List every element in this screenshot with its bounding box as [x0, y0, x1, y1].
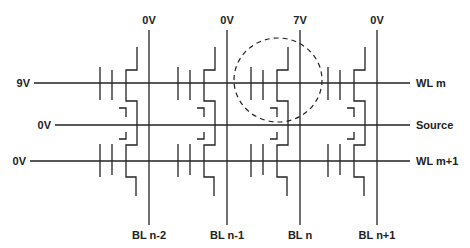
selected-cell-highlight	[234, 38, 322, 122]
bl-n-1-lower-source-mark	[197, 132, 204, 139]
bl-n-upper-source-mark	[270, 108, 277, 117]
bl-n1-label: BL n+1	[359, 229, 396, 241]
bl-n-2-upper-source-mark	[119, 108, 126, 117]
bl-n-1-voltage: 0V	[220, 14, 233, 26]
bl-n-label: BL n	[288, 229, 312, 241]
bl-n-2-lower-source-mark	[119, 132, 126, 139]
bl-n-upper-channel	[277, 47, 288, 125]
bl-n-lower-source-mark	[270, 132, 277, 139]
bl-n-1-upper-source-mark	[197, 108, 204, 117]
wl-m1-voltage: 0V	[13, 155, 26, 167]
bl-n-voltage: 7V	[293, 14, 306, 26]
wl-m-label: WL m	[416, 77, 446, 89]
bl-n1-voltage: 0V	[370, 14, 383, 26]
wl-m1-label: WL m+1	[416, 155, 458, 167]
memory-array-diagram: 9VWL m0VSource0VWL m+10VBL n-20VBL n-17V…	[0, 0, 470, 248]
bl-n-1-label: BL n-1	[210, 229, 244, 241]
bl-n-2-voltage: 0V	[142, 14, 155, 26]
source-voltage: 0V	[38, 119, 51, 131]
bl-n1-upper-source-mark	[347, 108, 354, 117]
bl-n1-lower-source-mark	[347, 132, 354, 139]
wl-m-voltage: 9V	[17, 77, 30, 89]
bl-n-1-upper-channel	[204, 47, 215, 125]
source-label: Source	[416, 119, 453, 131]
bl-n1-upper-channel	[354, 47, 365, 125]
bl-n-2-label: BL n-2	[132, 229, 166, 241]
schematic-drawing	[0, 0, 470, 248]
bl-n-2-upper-channel	[126, 47, 137, 125]
